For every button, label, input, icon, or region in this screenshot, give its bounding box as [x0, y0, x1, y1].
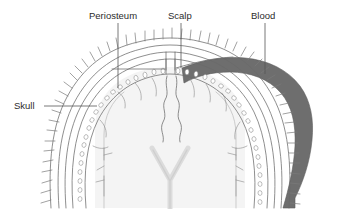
label-periosteum: Periosteum	[89, 10, 137, 21]
cranial-cross-section-svg: Periosteum Scalp Blood Skull	[0, 0, 340, 209]
label-skull: Skull	[14, 100, 35, 111]
label-blood: Blood	[251, 10, 275, 21]
label-scalp: Scalp	[168, 10, 192, 21]
medical-diagram-figure: Periosteum Scalp Blood Skull	[0, 0, 340, 209]
